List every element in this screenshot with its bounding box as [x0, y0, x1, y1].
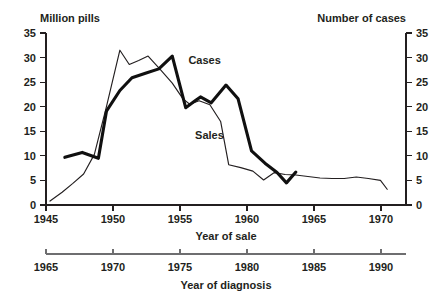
series-line-sales — [50, 50, 387, 201]
left-tick-label-10: 10 — [24, 150, 36, 162]
right-axis-header-label: Number of cases — [317, 12, 406, 24]
right-tick-label-0: 0 — [416, 199, 422, 211]
right-tick-label-25: 25 — [416, 76, 428, 88]
x-secondary-tick-label-1990: 1990 — [369, 261, 393, 273]
x-primary-tick-label-1950: 1950 — [101, 213, 125, 225]
left-tick-label-35: 35 — [24, 27, 36, 39]
series-line-cases — [65, 56, 296, 183]
primary-x-axis-tick-labels: 1945 1950 1955 1960 1965 1970 — [34, 213, 393, 225]
left-axis-ticks — [40, 33, 46, 205]
right-tick-label-10: 10 — [416, 150, 428, 162]
left-tick-label-5: 5 — [30, 174, 36, 186]
primary-x-axis-ticks — [46, 205, 381, 211]
right-tick-label-15: 15 — [416, 125, 428, 137]
left-tick-label-15: 15 — [24, 125, 36, 137]
left-tick-label-25: 25 — [24, 76, 36, 88]
right-axis-ticks — [406, 33, 412, 205]
left-tick-label-20: 20 — [24, 101, 36, 113]
right-tick-label-20: 20 — [416, 101, 428, 113]
x-secondary-tick-label-1975: 1975 — [168, 261, 192, 273]
left-axis-header-label: Million pills — [40, 12, 100, 24]
right-axis-tick-labels: 35 30 25 20 15 10 5 0 — [416, 27, 428, 211]
secondary-x-axis-ticks — [46, 249, 381, 254]
x-secondary-tick-label-1965: 1965 — [34, 261, 58, 273]
series-annotation-cases: Cases — [188, 54, 220, 66]
secondary-x-axis-tick-labels: 1965 1970 1975 1980 1985 1990 — [34, 261, 393, 273]
right-tick-label-35: 35 — [416, 27, 428, 39]
x-primary-tick-label-1965: 1965 — [302, 213, 326, 225]
x-secondary-tick-label-1985: 1985 — [302, 261, 326, 273]
chart-figure: Million pills Number of cases 35 30 25 2… — [0, 0, 445, 304]
series-annotation-sales: Sales — [195, 129, 224, 141]
right-tick-label-5: 5 — [416, 174, 422, 186]
x-primary-tick-label-1955: 1955 — [168, 213, 192, 225]
left-tick-label-0: 0 — [30, 199, 36, 211]
left-tick-label-30: 30 — [24, 52, 36, 64]
x-primary-tick-label-1945: 1945 — [34, 213, 58, 225]
right-tick-label-30: 30 — [416, 52, 428, 64]
x-secondary-tick-label-1970: 1970 — [101, 261, 125, 273]
x-primary-tick-label-1970: 1970 — [369, 213, 393, 225]
primary-x-axis-title: Year of sale — [195, 230, 256, 242]
x-primary-tick-label-1960: 1960 — [235, 213, 259, 225]
x-secondary-tick-label-1980: 1980 — [235, 261, 259, 273]
chart-canvas: Million pills Number of cases 35 30 25 2… — [0, 0, 445, 304]
left-axis-tick-labels: 35 30 25 20 15 10 5 0 — [24, 27, 36, 211]
secondary-x-axis-title: Year of diagnosis — [180, 279, 271, 291]
